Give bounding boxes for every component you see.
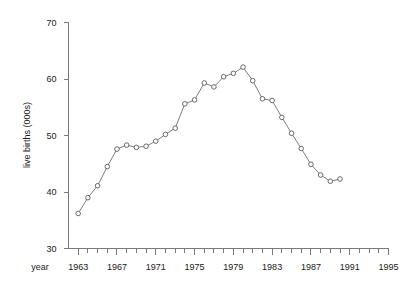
data-point-marker: [270, 98, 275, 103]
data-point-marker: [105, 164, 110, 169]
x-axis-tick-label: 1963: [68, 262, 88, 272]
data-point-marker: [183, 102, 188, 107]
data-point-marker: [280, 115, 285, 120]
data-point-marker: [309, 162, 314, 167]
x-axis-tick-label: 1995: [378, 262, 398, 272]
y-axis-tick-label: 60: [46, 74, 56, 84]
data-series-live-births: [76, 65, 342, 216]
data-point-marker: [115, 147, 120, 152]
chart-container: 3040506070 19631967197119751979198319871…: [0, 0, 410, 293]
x-axis: 196319671971197519791983198719911995: [68, 249, 398, 272]
y-axis: 3040506070: [46, 18, 68, 254]
data-point-marker: [299, 146, 304, 151]
data-point-marker: [163, 132, 168, 137]
data-point-marker: [192, 98, 197, 103]
x-axis-tick-label: 1971: [146, 262, 166, 272]
data-point-marker: [250, 78, 255, 83]
x-axis-tick-label: 1967: [107, 262, 127, 272]
data-point-marker: [318, 173, 323, 178]
y-axis-tick-label: 40: [46, 187, 56, 197]
data-point-marker: [338, 177, 343, 182]
data-point-marker: [231, 71, 236, 76]
x-axis-tick-label: 1979: [223, 262, 243, 272]
x-axis-tick-label: 1987: [301, 262, 321, 272]
data-point-marker: [144, 144, 149, 149]
data-point-marker: [86, 195, 91, 200]
y-axis-tick-label: 30: [46, 244, 56, 254]
data-point-marker: [76, 211, 81, 216]
x-axis-title: year: [31, 262, 49, 272]
data-point-marker: [202, 81, 207, 86]
data-point-marker: [221, 74, 226, 79]
data-point-marker: [260, 96, 265, 101]
x-axis-tick-label: 1991: [340, 262, 360, 272]
data-point-marker: [134, 145, 139, 150]
data-point-marker: [124, 143, 129, 148]
data-point-marker: [173, 126, 178, 131]
x-axis-tick-label: 1975: [185, 262, 205, 272]
data-point-marker: [328, 179, 333, 184]
y-axis-tick-label: 70: [46, 18, 56, 28]
data-point-marker: [212, 85, 217, 90]
data-point-marker: [95, 183, 100, 188]
series-polyline: [78, 67, 340, 213]
x-axis-tick-label: 1983: [262, 262, 282, 272]
line-chart: 3040506070 19631967197119751979198319871…: [0, 0, 410, 293]
data-point-marker: [241, 65, 246, 70]
data-point-marker: [289, 131, 294, 136]
data-point-marker: [153, 139, 158, 144]
y-axis-tick-label: 50: [46, 131, 56, 141]
y-axis-title: live births (000s): [22, 102, 32, 168]
axis-titles: live births (000s)year: [22, 102, 49, 272]
